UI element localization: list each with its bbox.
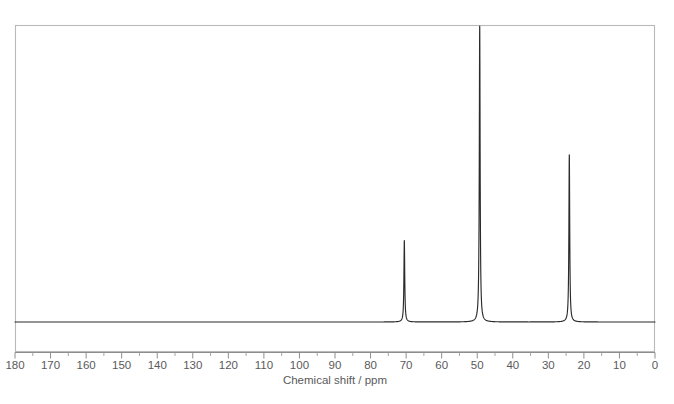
x-tick-label: 120 [219, 359, 238, 371]
x-tick-label: 70 [400, 359, 413, 371]
x-tick-label: 80 [364, 359, 377, 371]
x-tick-label: 110 [255, 359, 273, 371]
x-tick-label: 30 [542, 359, 555, 371]
x-tick-label: 40 [506, 359, 519, 371]
x-tick-label: 170 [41, 359, 60, 371]
x-tick-label: 100 [290, 359, 309, 371]
x-axis-title: Chemical shift / ppm [283, 374, 387, 386]
x-tick-label: 140 [148, 359, 167, 371]
x-tick-label: 0 [652, 359, 658, 371]
x-tick-label: 90 [329, 359, 342, 371]
x-tick-label: 20 [577, 359, 590, 371]
x-tick-label: 50 [471, 359, 484, 371]
x-tick-label: 10 [613, 359, 626, 371]
x-tick-label: 180 [5, 359, 24, 371]
x-tick-label: 160 [77, 359, 96, 371]
spectrum-chart: 1801701601501401301201101009080706050403… [0, 0, 674, 404]
nmr-spectrum-figure: 1801701601501401301201101009080706050403… [0, 0, 674, 404]
x-tick-label: 150 [112, 359, 131, 371]
chart-background [0, 0, 674, 404]
x-tick-label: 130 [183, 359, 202, 371]
x-tick-label: 60 [435, 359, 448, 371]
